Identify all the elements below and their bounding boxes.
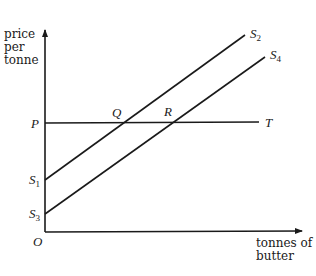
x-axis-label-line2: butter xyxy=(256,249,294,263)
x-axis-label-line1: tonnes of xyxy=(256,236,314,250)
price-line-start-label: P xyxy=(30,116,39,131)
supply-curve-S4-label: S4 xyxy=(270,47,282,64)
origin-label: O xyxy=(33,234,43,249)
y-axis-label-line3: tonne xyxy=(4,53,39,67)
diagram-canvas: price per tonne tonnes of butter O P T S… xyxy=(0,0,316,276)
y-axis-label-line2: per xyxy=(4,40,25,54)
price-line-end-label: T xyxy=(265,115,273,130)
intersection-label-R: R xyxy=(163,104,172,119)
intersection-label-Q: Q xyxy=(112,105,122,120)
supply-curve-S2-label: S2 xyxy=(250,26,261,43)
supply-curve-S1-label: S1 xyxy=(29,172,40,189)
y-axis-label-line1: price xyxy=(4,27,35,41)
x-axis xyxy=(45,231,302,232)
supply-curve-S3-label: S3 xyxy=(29,206,41,223)
price-line-PT xyxy=(45,122,259,123)
supply-curve-S3S4 xyxy=(45,57,265,214)
supply-curve-S1S2 xyxy=(45,35,245,180)
